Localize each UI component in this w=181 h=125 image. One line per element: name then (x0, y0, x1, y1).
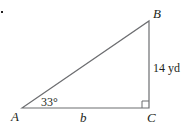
bullet-dot (1, 11, 3, 13)
side-ac-label: b (80, 110, 87, 125)
right-angle-marker (142, 101, 149, 108)
angle-a-label: 33° (41, 95, 58, 109)
vertex-label-b: B (153, 6, 161, 21)
triangle-diagram: B A C 14 yd 33° b (0, 0, 181, 125)
vertex-label-a: A (10, 109, 19, 124)
vertex-label-c: C (147, 110, 156, 125)
side-bc-label: 14 yd (153, 61, 180, 75)
